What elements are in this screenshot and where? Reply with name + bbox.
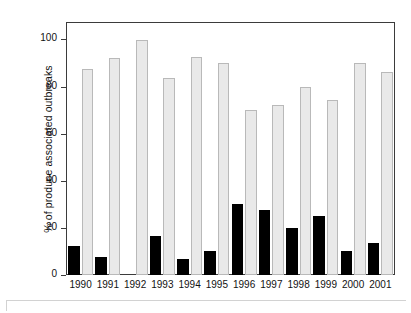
bar-light-gray-series-1998 bbox=[300, 87, 312, 275]
bar-light-gray-series-1996 bbox=[245, 110, 257, 275]
bar-black-series-1999 bbox=[313, 216, 325, 275]
bar-black-series-1997 bbox=[259, 210, 271, 275]
x-axis-label-2001: 2001 bbox=[367, 279, 394, 290]
bar-group-1991 bbox=[94, 23, 121, 275]
bar-black-series-1990 bbox=[68, 246, 80, 275]
bar-group-1997 bbox=[258, 23, 285, 275]
y-tick-label: 40 bbox=[46, 174, 57, 185]
x-axis-label-2000: 2000 bbox=[340, 279, 367, 290]
x-axis-label-1990: 1990 bbox=[67, 279, 94, 290]
bar-light-gray-series-1990 bbox=[82, 69, 94, 275]
x-axis-label-1993: 1993 bbox=[149, 279, 176, 290]
y-axis-title: % of produce associated outbreaks bbox=[42, 24, 54, 274]
bar-black-series-1994 bbox=[177, 259, 189, 275]
bar-light-gray-series-1991 bbox=[109, 58, 121, 275]
bar-black-series-1996 bbox=[232, 204, 244, 275]
bar-group-1998 bbox=[285, 23, 312, 275]
y-tick-label: 20 bbox=[46, 221, 57, 232]
bar-light-gray-series-1997 bbox=[272, 105, 284, 275]
y-tick-mark bbox=[61, 134, 66, 135]
bar-light-gray-series-1993 bbox=[163, 78, 175, 275]
y-tick-label: 0 bbox=[51, 268, 57, 279]
bar-light-gray-series-1999 bbox=[327, 100, 339, 275]
bar-black-series-1993 bbox=[150, 236, 162, 275]
y-tick-mark bbox=[61, 228, 66, 229]
bottom-divider bbox=[6, 300, 406, 301]
bar-black-series-2001 bbox=[368, 243, 380, 275]
bar-group-1994 bbox=[176, 23, 203, 275]
bottom-divider-tick bbox=[6, 300, 7, 311]
x-axis-label-1997: 1997 bbox=[258, 279, 285, 290]
bar-group-1990 bbox=[67, 23, 94, 275]
y-tick-mark bbox=[61, 275, 66, 276]
x-axis-label-1994: 1994 bbox=[176, 279, 203, 290]
y-tick-mark bbox=[61, 181, 66, 182]
bar-light-gray-series-2000 bbox=[354, 63, 366, 275]
x-axis-label-1996: 1996 bbox=[231, 279, 258, 290]
x-axis-label-1998: 1998 bbox=[285, 279, 312, 290]
y-tick-label: 100 bbox=[40, 32, 57, 43]
y-tick-label: 60 bbox=[46, 127, 57, 138]
bar-group-1996 bbox=[231, 23, 258, 275]
bar-group-2001 bbox=[367, 23, 394, 275]
x-axis-label-1999: 1999 bbox=[312, 279, 339, 290]
x-axis-label-1991: 1991 bbox=[94, 279, 121, 290]
bar-light-gray-series-2001 bbox=[381, 72, 393, 275]
bar-black-series-1998 bbox=[286, 228, 298, 275]
y-tick-label: 80 bbox=[46, 80, 57, 91]
bar-black-series-2000 bbox=[341, 251, 353, 275]
y-tick-mark bbox=[61, 39, 66, 40]
bar-light-gray-series-1994 bbox=[191, 57, 203, 275]
bar-black-series-1995 bbox=[204, 251, 216, 275]
bar-group-2000 bbox=[340, 23, 367, 275]
bar-group-1993 bbox=[149, 23, 176, 275]
bar-light-gray-series-1995 bbox=[218, 63, 230, 275]
bar-group-1992 bbox=[122, 23, 149, 275]
bar-light-gray-series-1992 bbox=[136, 40, 148, 276]
bar-group-1999 bbox=[312, 23, 339, 275]
bar-black-series-1991 bbox=[95, 257, 107, 275]
x-axis-label-1992: 1992 bbox=[122, 279, 149, 290]
x-axis-label-1995: 1995 bbox=[203, 279, 230, 290]
bar-group-1995 bbox=[203, 23, 230, 275]
plot-area bbox=[67, 23, 394, 275]
figure: % of produce associated outbreaks 020406… bbox=[0, 0, 411, 313]
y-tick-mark bbox=[61, 87, 66, 88]
